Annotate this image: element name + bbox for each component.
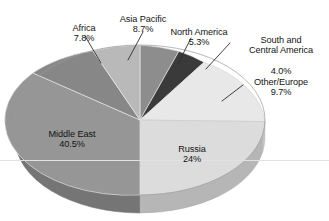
slice-label-middle-east-pct: 40.5% bbox=[22, 139, 122, 150]
slice-label-north-america-pct: 5.3% bbox=[160, 37, 238, 48]
slice-label-other-europe-name: Other/Europe bbox=[254, 77, 308, 87]
slice-label-russia: Russia 24% bbox=[152, 133, 232, 175]
slice-label-russia-pct: 24% bbox=[152, 154, 232, 165]
pie-chart: Africa 7.8% Asia Pacific 8.7% North Amer… bbox=[0, 0, 329, 221]
slice-label-africa: Africa 7.8% bbox=[56, 12, 112, 54]
slice-label-other-europe-pct: 9.7% bbox=[238, 87, 324, 98]
slice-label-africa-name: Africa bbox=[73, 23, 96, 33]
slice-label-south-central-america-name: South and bbox=[261, 35, 302, 45]
slice-label-other-europe: Other/Europe 9.7% bbox=[238, 66, 324, 108]
slice-label-south-central-america-name2: Central America bbox=[236, 45, 326, 56]
slice-label-middle-east: Middle East 40.5% bbox=[22, 118, 122, 160]
slice-label-africa-pct: 7.8% bbox=[56, 33, 112, 44]
slice-label-north-america: North America 5.3% bbox=[160, 16, 238, 58]
slice-label-russia-name: Russia bbox=[178, 144, 205, 154]
slice-label-middle-east-name: Middle East bbox=[49, 129, 96, 139]
slice-label-north-america-name: North America bbox=[171, 27, 228, 37]
